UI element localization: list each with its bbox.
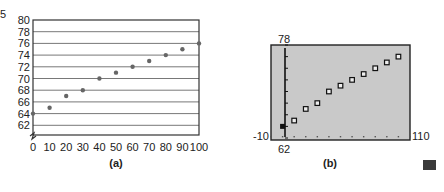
data-point xyxy=(97,76,101,80)
chart-b-xmin-label: -10 xyxy=(253,130,269,142)
chart-b-ymin-label: 62 xyxy=(278,143,290,155)
x-tick-dot xyxy=(282,136,283,137)
y-tick-label: 80 xyxy=(18,14,30,26)
data-point xyxy=(31,111,35,115)
x-tick-dot xyxy=(340,136,341,137)
data-point xyxy=(303,107,308,112)
chart-b-ymax-label: 78 xyxy=(278,33,290,45)
data-point xyxy=(350,78,355,83)
y-tick-label: 68 xyxy=(18,84,30,96)
data-point xyxy=(164,53,168,57)
data-point xyxy=(114,70,118,74)
data-point xyxy=(315,101,320,106)
x-tick-dot xyxy=(386,136,387,137)
x-tick-dot xyxy=(328,136,329,137)
data-point xyxy=(280,124,285,129)
x-tick-label: 80 xyxy=(160,141,172,153)
x-tick-label: 60 xyxy=(126,141,138,153)
x-tick-label: 10 xyxy=(43,141,55,153)
data-point xyxy=(396,54,401,59)
x-tick-dot xyxy=(270,136,271,137)
data-point xyxy=(338,83,343,88)
x-tick-label: 90 xyxy=(176,141,188,153)
x-tick-dot xyxy=(317,136,318,137)
x-tick-dot xyxy=(351,136,352,137)
y-tick-label: 70 xyxy=(18,73,30,85)
data-point xyxy=(64,94,68,98)
data-point xyxy=(130,65,134,69)
data-point xyxy=(180,47,184,51)
data-point xyxy=(81,88,85,92)
end-marker-icon xyxy=(423,160,436,170)
x-tick-dot xyxy=(409,136,410,137)
x-tick-label: 70 xyxy=(143,141,155,153)
x-tick-dot xyxy=(375,136,376,137)
y-tick-label: 66 xyxy=(18,96,30,108)
x-tick-label: 30 xyxy=(77,141,89,153)
x-tick-dot xyxy=(293,136,294,137)
x-tick-dot xyxy=(363,136,364,137)
x-tick-label: 50 xyxy=(110,141,122,153)
data-point xyxy=(292,118,297,123)
x-tick-label: 20 xyxy=(60,141,72,153)
y-tick-label: 74 xyxy=(18,49,30,61)
x-tick-label: 0 xyxy=(30,141,36,153)
y-tick-label: 76 xyxy=(18,37,30,49)
chart-b-xmax-label: 110 xyxy=(412,130,430,142)
y-tick-label: 62 xyxy=(18,119,30,131)
y-tick-label: 72 xyxy=(18,61,30,73)
figure: 5 62646668707274767880 01020304050607080… xyxy=(0,0,444,192)
data-point xyxy=(385,60,390,65)
data-point xyxy=(147,59,151,63)
chart-b-caption: (b) xyxy=(323,157,337,169)
data-point xyxy=(327,89,332,94)
data-point xyxy=(373,66,378,71)
calculator-screen xyxy=(271,45,410,140)
chart-a-y-tick-labels: 62646668707274767880 xyxy=(18,14,30,131)
x-tick-dot xyxy=(305,136,306,137)
y-tick-label: 78 xyxy=(18,26,30,38)
data-point xyxy=(47,106,51,110)
data-point xyxy=(197,41,201,45)
x-tick-label: 100 xyxy=(190,141,208,153)
chart-a-gridlines xyxy=(33,32,199,126)
chart-b: 78 62 -10 110 (b) xyxy=(253,33,429,169)
x-tick-label: 40 xyxy=(93,141,105,153)
chart-a-caption: (a) xyxy=(109,157,123,169)
corner-mark: 5 xyxy=(0,8,6,20)
chart-a: 62646668707274767880 0102030405060708090… xyxy=(18,14,208,169)
axis-break-icon xyxy=(30,133,36,139)
y-tick-label: 64 xyxy=(18,108,30,120)
chart-a-x-tick-labels: 0102030405060708090100 xyxy=(30,141,208,153)
x-tick-dot xyxy=(398,136,399,137)
data-point xyxy=(361,72,366,77)
chart-a-frame xyxy=(33,20,199,135)
